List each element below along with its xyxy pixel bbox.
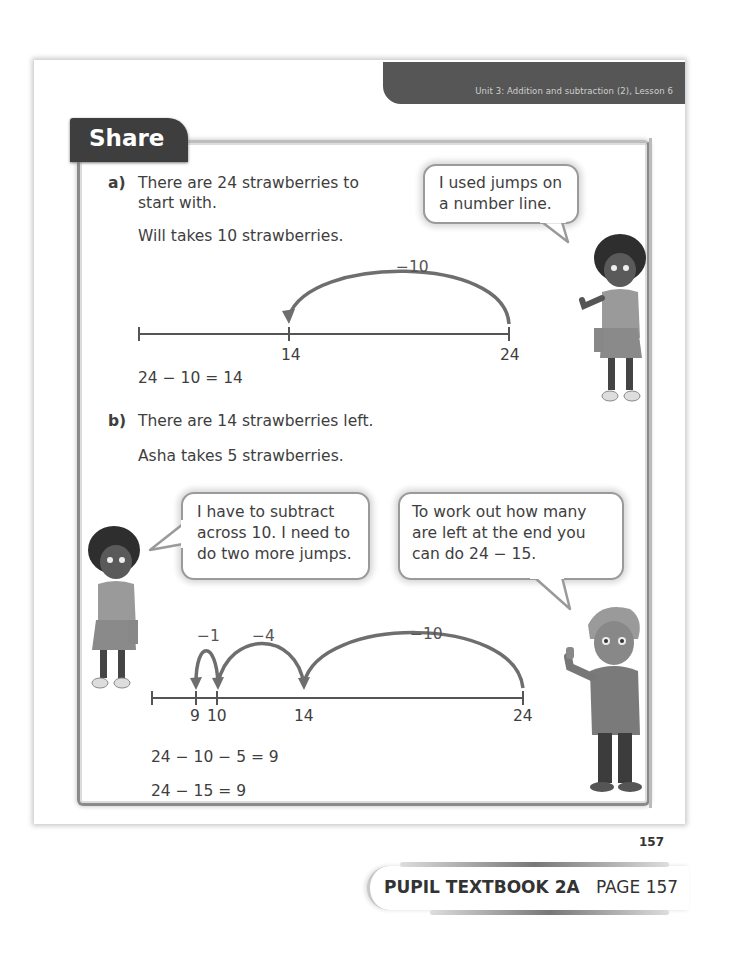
number-line-b	[0, 0, 733, 963]
page-number: 157	[639, 835, 664, 849]
jump-label-minus-4: −4	[252, 626, 275, 647]
footer-text: PUPIL TEXTBOOK 2A PAGE 157	[384, 877, 678, 897]
book-label: PUPIL TEXTBOOK 2A	[384, 877, 580, 897]
tick-label-14: 14	[294, 706, 314, 727]
boy-character-icon	[560, 595, 650, 795]
equation-b-1: 24 − 10 − 5 = 9	[151, 747, 279, 768]
tick-label-9: 9	[190, 706, 200, 727]
page-label: PAGE 157	[596, 877, 678, 897]
equation-b-2: 24 − 15 = 9	[151, 781, 246, 802]
jump-label-minus-10: −10	[410, 624, 443, 645]
tick-label-24: 24	[513, 706, 533, 727]
pupil-textbook-footer-tab: PUPIL TEXTBOOK 2A PAGE 157	[367, 866, 689, 910]
jump-label-minus-1: −1	[197, 626, 220, 647]
tick-label-10: 10	[207, 706, 227, 727]
